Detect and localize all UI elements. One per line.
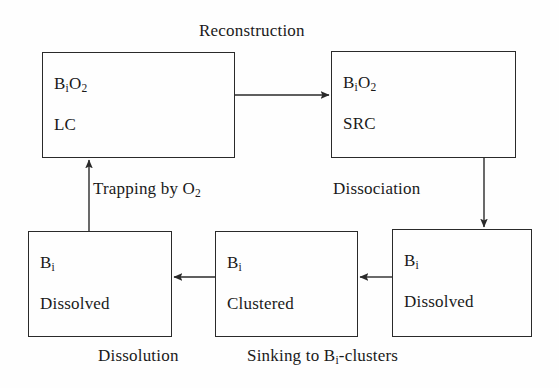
- node-bi-o2-lc[interactable]: BiO2 LC: [42, 52, 235, 158]
- process-cycle-diagram: BiO2 LC BiO2 SRC Bi Dissolved Bi Cluster…: [0, 0, 559, 388]
- node-bi-o2-lc-formula: BiO2: [54, 75, 87, 92]
- node-bi-o2-src[interactable]: BiO2 SRC: [331, 51, 516, 158]
- node-bi-dissolved-left[interactable]: Bi Dissolved: [28, 231, 172, 337]
- node-bi-clustered-state: Clustered: [227, 295, 294, 312]
- node-bi-dissolved-left-state: Dissolved: [40, 295, 110, 312]
- node-bi-dissolved-right-state: Dissolved: [404, 293, 474, 310]
- node-bi-o2-lc-state: LC: [54, 116, 76, 133]
- node-bi-clustered[interactable]: Bi Clustered: [215, 231, 358, 337]
- node-bi-dissolved-right[interactable]: Bi Dissolved: [392, 229, 532, 337]
- label-dissociation: Dissociation: [333, 180, 420, 197]
- label-sinking-to-bi-clusters: Sinking to Bi-clusters: [247, 347, 398, 364]
- node-bi-o2-src-state: SRC: [343, 115, 376, 132]
- node-bi-o2-src-formula: BiO2: [343, 74, 376, 91]
- label-trapping-by-o2: Trapping by O2: [93, 180, 201, 197]
- node-bi-dissolved-left-formula: Bi: [40, 254, 55, 271]
- label-reconstruction: Reconstruction: [199, 22, 305, 39]
- node-bi-dissolved-right-formula: Bi: [404, 252, 419, 269]
- node-bi-clustered-formula: Bi: [227, 254, 242, 271]
- label-dissolution: Dissolution: [98, 347, 179, 364]
